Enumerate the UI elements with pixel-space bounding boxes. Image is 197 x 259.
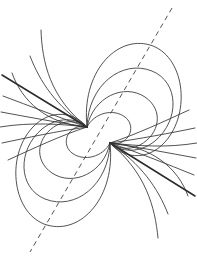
figure-background [0, 0, 197, 259]
field-line-canvas [0, 0, 197, 259]
dipole-field-figure [0, 0, 197, 259]
